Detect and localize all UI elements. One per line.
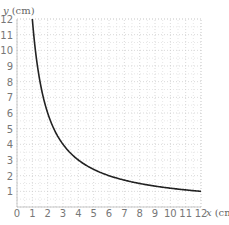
y-tick-label: 6 [7, 108, 13, 119]
y-tick-label: 2 [7, 171, 13, 182]
x-tick-label: 5 [90, 208, 96, 219]
y-tick-label: 3 [7, 155, 13, 166]
x-tick-label: 10 [164, 208, 177, 219]
y-tick-label: 10 [0, 45, 13, 56]
x-tick-label: 11 [179, 208, 192, 219]
y-tick-label: 5 [7, 124, 13, 135]
y-tick-label: 11 [0, 30, 13, 41]
x-tick-label: 4 [75, 208, 81, 219]
y-tick-label: 1 [7, 186, 13, 197]
y-tick-label: 9 [7, 61, 13, 72]
x-tick-label: 3 [60, 208, 66, 219]
y-tick-label: 8 [7, 77, 13, 88]
x-axis-label: x(cm) [206, 207, 229, 218]
grid [17, 19, 201, 207]
inverse-proportion-chart: 0123456789101112 123456789101112 y(cm) x… [0, 0, 229, 225]
x-tick-label: 1 [29, 208, 35, 219]
x-tick-label: 9 [152, 208, 158, 219]
y-tick-labels: 123456789101112 [0, 14, 13, 197]
y-axis-label: y(cm) [2, 5, 35, 16]
x-tick-labels: 0123456789101112 [14, 208, 208, 219]
x-tick-label: 6 [106, 208, 112, 219]
x-tick-label: 8 [136, 208, 142, 219]
y-tick-label: 4 [7, 139, 13, 150]
x-tick-label: 0 [14, 208, 20, 219]
x-tick-label: 2 [44, 208, 50, 219]
y-tick-label: 7 [7, 92, 13, 103]
x-tick-label: 7 [121, 208, 127, 219]
